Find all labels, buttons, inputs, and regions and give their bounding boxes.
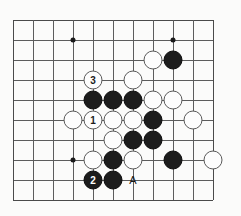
stone-white-move-3[interactable]: 3 — [84, 71, 103, 90]
grid-line-vertical — [213, 20, 214, 200]
move-number: 3 — [90, 75, 96, 85]
stone-white[interactable] — [84, 151, 103, 170]
grid-line-vertical — [173, 20, 174, 200]
grid-line-vertical — [53, 20, 54, 200]
stone-black[interactable] — [164, 51, 183, 70]
stone-white[interactable] — [104, 131, 123, 150]
grid-line-horizontal — [13, 200, 213, 201]
point-label-A: A — [129, 174, 136, 186]
stone-black[interactable] — [104, 91, 123, 110]
stone-black[interactable] — [104, 151, 123, 170]
stone-white[interactable] — [104, 111, 123, 130]
stone-black[interactable] — [124, 91, 143, 110]
stone-white[interactable] — [124, 151, 143, 170]
grid-line-vertical — [33, 20, 34, 200]
stone-black[interactable] — [124, 131, 143, 150]
stone-white[interactable] — [64, 111, 83, 130]
go-board[interactable]: 312A — [0, 0, 241, 216]
star-point — [71, 158, 76, 163]
stone-black[interactable] — [144, 111, 163, 130]
stone-white[interactable] — [184, 111, 203, 130]
stone-white[interactable] — [144, 91, 163, 110]
star-point — [71, 38, 76, 43]
stone-black[interactable] — [84, 91, 103, 110]
stone-white[interactable] — [124, 111, 143, 130]
stone-white[interactable] — [144, 51, 163, 70]
go-board-figure: 312A — [0, 0, 241, 216]
stone-white[interactable] — [164, 91, 183, 110]
move-number: 2 — [90, 175, 96, 185]
stone-black[interactable] — [104, 171, 123, 190]
star-point — [171, 38, 176, 43]
stone-white[interactable] — [204, 151, 223, 170]
move-number: 1 — [90, 115, 96, 125]
stone-white[interactable] — [124, 71, 143, 90]
grid-line-vertical — [13, 20, 14, 200]
stone-black-move-2[interactable]: 2 — [84, 171, 103, 190]
stone-white-move-1[interactable]: 1 — [84, 111, 103, 130]
stone-black[interactable] — [144, 131, 163, 150]
stone-black[interactable] — [164, 151, 183, 170]
